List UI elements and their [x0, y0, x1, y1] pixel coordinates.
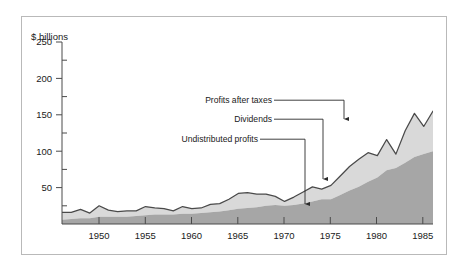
annotation-label-undistributed-profits: Undistributed profits	[182, 134, 258, 144]
x-tick-label-1950: 1950	[88, 230, 109, 241]
figure-container: $ billions 250	[0, 0, 465, 272]
x-tick-label-1975: 1975	[320, 230, 341, 241]
y-tick-label-150: 150	[36, 109, 52, 120]
y-tick-label-250: 250	[36, 36, 52, 47]
x-tick-label-1965: 1965	[227, 230, 248, 241]
x-tick-label-1960: 1960	[181, 230, 202, 241]
y-tick-label-100: 100	[36, 146, 52, 157]
x-tick-label-1970: 1970	[273, 230, 294, 241]
x-tick-label-1955: 1955	[135, 230, 156, 241]
y-tick-label-50: 50	[41, 182, 52, 193]
stacked-area-chart: $ billions 250	[0, 0, 465, 272]
annotation-label-dividends: Dividends	[234, 114, 272, 124]
annotation-label-profits-after-taxes: Profits after taxes	[205, 95, 272, 105]
x-tick-label-1985: 1985	[412, 230, 433, 241]
x-tick-label-1980: 1980	[366, 230, 387, 241]
y-tick-label-200: 200	[36, 73, 52, 84]
